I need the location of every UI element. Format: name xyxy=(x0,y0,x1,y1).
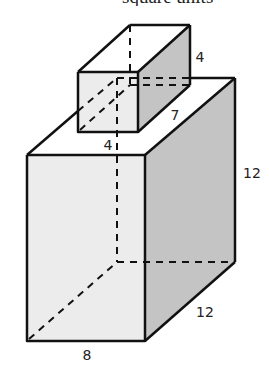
large-prism-front-face xyxy=(27,155,145,341)
small-depth-label: 7 xyxy=(171,107,180,123)
large-width-label: 8 xyxy=(83,347,92,363)
small-height-label: 4 xyxy=(196,49,205,65)
prism-diagram: 4 7 4 12 12 8 xyxy=(0,0,269,378)
small-width-label: 4 xyxy=(104,137,113,153)
large-depth-label: 12 xyxy=(196,304,214,320)
large-height-label: 12 xyxy=(243,165,261,181)
